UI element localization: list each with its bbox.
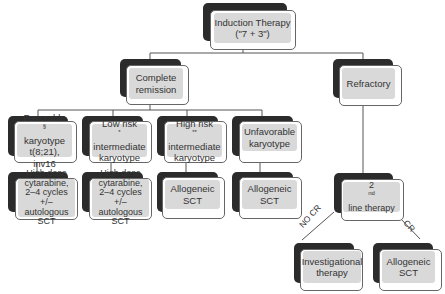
node-label: Low risk*intermediatekaryotype (92, 124, 147, 157)
node-label: High dosecytarabine,2–4 cycles +/–autolo… (18, 179, 75, 217)
node-label: High dosecytarabine,2–4 cycles +/–autolo… (92, 179, 149, 217)
node-label: Investigationaltherapy (303, 251, 361, 283)
node-label: Favorable§karyotypet(8;21), inv16 (17, 124, 72, 157)
node-label: AllogeneicSCT (165, 180, 220, 209)
node-label: 2nd line therapy (343, 182, 400, 212)
node-label: AllogeneicSCT (382, 251, 435, 283)
node-label: Refractory (342, 68, 395, 99)
node-label: Unfavorablekaryotype (242, 124, 297, 151)
node-label: Induction Therapy("7 + 3") (214, 13, 291, 43)
node-label: Completeremission (129, 68, 183, 99)
node-label: AllogeneicSCT (242, 180, 297, 209)
node-label: High risk**intermediatekaryotype (167, 124, 222, 157)
